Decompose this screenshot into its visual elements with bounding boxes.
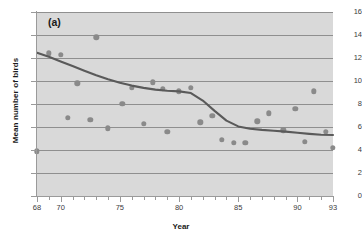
x-tick-85 bbox=[238, 197, 239, 202]
x-tick-label-68: 68 bbox=[33, 203, 41, 212]
y-tick-label-16: 16 bbox=[336, 8, 362, 16]
x-tick-73 bbox=[96, 197, 97, 200]
y-tick-2 bbox=[31, 173, 36, 174]
y-tick-10 bbox=[31, 81, 36, 82]
x-tick-80 bbox=[179, 197, 180, 202]
x-tick-86 bbox=[250, 197, 251, 200]
y-tick-label-8: 8 bbox=[336, 100, 362, 108]
x-tick-74 bbox=[108, 197, 109, 200]
x-tick-77 bbox=[144, 197, 145, 200]
x-tick-88 bbox=[274, 197, 275, 200]
plot-area: (a) bbox=[37, 12, 333, 196]
x-tick-87 bbox=[262, 197, 263, 200]
y-tick-label-6: 6 bbox=[336, 123, 362, 131]
x-tick-89 bbox=[286, 197, 287, 200]
x-tick-71 bbox=[73, 197, 74, 200]
x-tick-78 bbox=[155, 197, 156, 200]
x-tick-70 bbox=[61, 197, 62, 202]
panel-label: (a) bbox=[48, 16, 61, 28]
x-tick-label-93: 93 bbox=[329, 203, 337, 212]
x-tick-84 bbox=[226, 197, 227, 200]
x-tick-75 bbox=[120, 197, 121, 202]
x-tick-76 bbox=[132, 197, 133, 200]
y-tick-8 bbox=[31, 104, 36, 105]
chart-figure: (a) 0246810121416 68707580859093 Mean nu… bbox=[0, 0, 362, 244]
y-axis-title: Mean number of birds bbox=[11, 41, 20, 161]
x-tick-93 bbox=[333, 197, 334, 202]
x-tick-72 bbox=[84, 197, 85, 200]
y-tick-0 bbox=[31, 196, 36, 197]
x-tick-90 bbox=[297, 197, 298, 202]
x-tick-83 bbox=[215, 197, 216, 200]
y-tick-label-14: 14 bbox=[336, 31, 362, 39]
y-tick-4 bbox=[31, 150, 36, 151]
x-tick-label-80: 80 bbox=[175, 203, 183, 212]
y-axis-line bbox=[36, 11, 37, 197]
x-tick-81 bbox=[191, 197, 192, 200]
y-tick-label-0: 0 bbox=[336, 192, 362, 200]
x-tick-92 bbox=[321, 197, 322, 200]
x-tick-label-70: 70 bbox=[57, 203, 65, 212]
x-tick-82 bbox=[203, 197, 204, 200]
x-axis-line bbox=[36, 196, 334, 197]
trend-line-path bbox=[37, 53, 333, 135]
x-tick-label-75: 75 bbox=[116, 203, 124, 212]
y-tick-6 bbox=[31, 127, 36, 128]
x-tick-68 bbox=[37, 197, 38, 202]
x-tick-79 bbox=[167, 197, 168, 200]
x-tick-label-90: 90 bbox=[293, 203, 301, 212]
y-tick-14 bbox=[31, 35, 36, 36]
trend-line bbox=[37, 12, 333, 196]
x-axis-title: Year bbox=[0, 222, 362, 231]
x-tick-91 bbox=[309, 197, 310, 200]
y-tick-label-4: 4 bbox=[336, 146, 362, 154]
y-tick-12 bbox=[31, 58, 36, 59]
y-tick-label-12: 12 bbox=[336, 54, 362, 62]
x-tick-label-85: 85 bbox=[234, 203, 242, 212]
y-tick-16 bbox=[31, 12, 36, 13]
x-tick-69 bbox=[49, 197, 50, 200]
y-tick-label-10: 10 bbox=[336, 77, 362, 85]
y-tick-label-2: 2 bbox=[336, 169, 362, 177]
